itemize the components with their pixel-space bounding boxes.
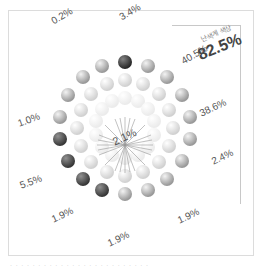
sphere bbox=[74, 103, 88, 117]
sphere bbox=[136, 77, 150, 91]
sphere bbox=[141, 59, 155, 73]
sphere bbox=[74, 139, 88, 153]
center-burst-icon bbox=[95, 115, 155, 175]
sphere bbox=[61, 88, 75, 102]
sphere bbox=[100, 77, 114, 91]
sphere bbox=[61, 154, 75, 168]
sphere bbox=[76, 70, 90, 84]
sphere bbox=[70, 121, 84, 135]
sphere bbox=[160, 172, 174, 186]
sphere bbox=[141, 183, 155, 197]
sphere bbox=[53, 110, 67, 124]
sphere bbox=[118, 91, 132, 105]
sphere bbox=[118, 55, 132, 69]
sphere bbox=[105, 94, 119, 108]
sphere bbox=[118, 73, 132, 87]
sphere bbox=[152, 87, 166, 101]
footer-caption: · · · · · · · · · · · · · · · · · · · · … bbox=[10, 262, 149, 268]
sphere bbox=[183, 110, 197, 124]
sphere bbox=[162, 103, 176, 117]
sphere bbox=[118, 187, 132, 201]
sphere bbox=[84, 87, 98, 101]
sphere bbox=[76, 172, 90, 186]
sphere bbox=[166, 121, 180, 135]
